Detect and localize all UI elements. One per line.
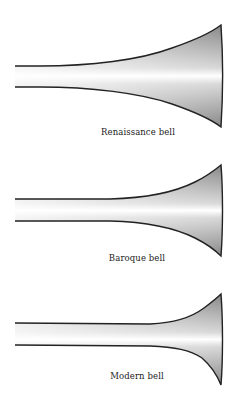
bell-comparison-diagram	[0, 0, 236, 397]
renaissance-bell-shape	[15, 25, 223, 127]
baroque-bell-label: Baroque bell	[109, 253, 165, 263]
baroque-bell-shape	[15, 165, 223, 256]
renaissance-bell-label: Renaissance bell	[101, 127, 175, 137]
modern-bell-label: Modern bell	[110, 371, 164, 381]
